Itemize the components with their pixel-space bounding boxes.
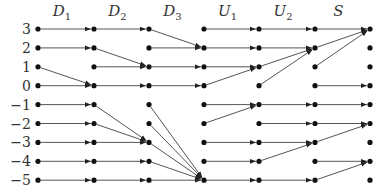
state-node xyxy=(201,83,206,88)
state-node xyxy=(256,140,261,145)
transition-edge xyxy=(96,124,146,141)
transition-edge xyxy=(151,107,203,178)
transition-edge xyxy=(317,31,367,66)
state-node xyxy=(91,121,96,126)
state-node xyxy=(201,45,206,50)
stage-label-S: S xyxy=(333,2,343,20)
state-node xyxy=(35,159,40,164)
state-node xyxy=(91,45,96,50)
state-node xyxy=(256,102,261,107)
state-node xyxy=(367,159,372,164)
state-node xyxy=(35,45,40,50)
state-node xyxy=(367,121,372,126)
transition-edge xyxy=(261,49,312,66)
state-node xyxy=(367,102,372,107)
state-node xyxy=(312,178,317,183)
state-node xyxy=(35,26,40,31)
state-node xyxy=(35,102,40,107)
row-label: −1 xyxy=(10,97,31,113)
state-node xyxy=(146,83,151,88)
row-label: 3 xyxy=(22,21,31,37)
state-node xyxy=(91,159,96,164)
row-labels: 3210−1−2−3−4−5 xyxy=(10,21,31,188)
state-node xyxy=(35,64,40,69)
state-node xyxy=(146,178,151,183)
row-label: −5 xyxy=(10,172,31,188)
transition-edge xyxy=(261,50,312,85)
row-label: 0 xyxy=(22,78,31,94)
state-node xyxy=(312,64,317,69)
transition-edge xyxy=(96,106,146,141)
state-node xyxy=(35,140,40,145)
stage-label-D3: D3 xyxy=(162,2,181,22)
transition-edge xyxy=(151,125,202,178)
state-node xyxy=(367,64,372,69)
state-node xyxy=(201,64,206,69)
state-node xyxy=(367,178,372,183)
transition-edge xyxy=(317,30,367,47)
state-node xyxy=(367,45,372,50)
state-node xyxy=(35,121,40,126)
state-node xyxy=(146,64,151,69)
state-node xyxy=(146,45,151,50)
state-node xyxy=(201,178,206,183)
stage-label-D2: D2 xyxy=(107,2,126,22)
state-node xyxy=(256,45,261,50)
state-node xyxy=(146,102,151,107)
row-label: −3 xyxy=(10,134,31,150)
state-node xyxy=(256,83,261,88)
stage-label-D1: D1 xyxy=(52,2,71,22)
transition-edge xyxy=(96,49,146,66)
state-node xyxy=(312,121,317,126)
stage-labels: D1D2D3U1U2S xyxy=(52,2,344,22)
state-node xyxy=(256,159,261,164)
stage-label-U1: U1 xyxy=(218,2,237,22)
state-node xyxy=(91,178,96,183)
state-node xyxy=(146,121,151,126)
state-node xyxy=(91,83,96,88)
transition-edge xyxy=(261,143,312,160)
state-node xyxy=(201,159,206,164)
transition-edge xyxy=(151,30,201,47)
row-label: −2 xyxy=(10,116,31,132)
transition-edge xyxy=(206,106,256,123)
transition-edge xyxy=(151,162,201,179)
state-node xyxy=(201,102,206,107)
state-node xyxy=(146,140,151,145)
row-label: 2 xyxy=(22,40,31,56)
state-node xyxy=(35,178,40,183)
state-node xyxy=(367,26,372,31)
state-node xyxy=(146,159,151,164)
state-node xyxy=(201,26,206,31)
state-node xyxy=(367,140,372,145)
transition-edge xyxy=(317,162,367,179)
transition-edge xyxy=(151,144,201,179)
state-node xyxy=(146,26,151,31)
row-label: 1 xyxy=(22,59,31,75)
state-node xyxy=(312,140,317,145)
state-node xyxy=(312,45,317,50)
state-node xyxy=(201,140,206,145)
state-node xyxy=(91,140,96,145)
state-node xyxy=(312,83,317,88)
row-label: −4 xyxy=(10,153,31,169)
state-node xyxy=(201,121,206,126)
state-node xyxy=(367,83,372,88)
state-node xyxy=(256,64,261,69)
state-node xyxy=(256,26,261,31)
state-node xyxy=(91,102,96,107)
state-node xyxy=(35,83,40,88)
transition-edge xyxy=(206,68,256,85)
state-node xyxy=(312,26,317,31)
state-node xyxy=(91,26,96,31)
state-node xyxy=(256,178,261,183)
state-node xyxy=(312,102,317,107)
state-node xyxy=(256,121,261,126)
transition-edge xyxy=(40,68,91,85)
stage-label-U2: U2 xyxy=(273,2,292,22)
transition-edge xyxy=(317,125,367,142)
state-node xyxy=(312,159,317,164)
transition-diagram: D1D2D3U1U2S 3210−1−2−3−4−5 xyxy=(0,0,392,193)
state-node xyxy=(91,64,96,69)
